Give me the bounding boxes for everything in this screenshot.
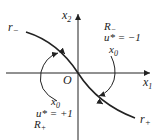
x1-axis-label: x1 xyxy=(142,75,152,91)
r-minus-label: r− xyxy=(8,20,19,35)
switching-curve-r-plus xyxy=(78,73,135,118)
start-x0-upper-label: x0 xyxy=(108,43,118,58)
switching-curve-r-minus xyxy=(26,32,78,73)
phase-plane-diagram: x2 x1 O r− r+ R− u* = −1 x0 x0 u* = +1 R… xyxy=(0,0,159,140)
region-r-plus-label: R+ xyxy=(33,118,46,132)
trajectory-upper-right xyxy=(99,56,115,96)
x2-axis-label: x2 xyxy=(61,8,71,24)
curve-arrow-lower xyxy=(98,101,103,104)
control-u-plus-label: u* = +1 xyxy=(36,107,73,119)
origin-label: O xyxy=(63,73,72,87)
r-plus-label: r+ xyxy=(140,112,151,127)
trajectory-lower-left xyxy=(40,53,58,101)
control-u-minus-label: u* = −1 xyxy=(104,31,141,43)
